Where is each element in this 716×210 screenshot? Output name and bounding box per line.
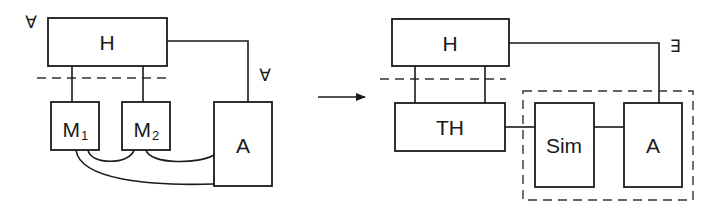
- m1-m2-curve: [88, 150, 134, 161]
- m2-box: M 2: [122, 102, 170, 150]
- h-a-connector: [167, 41, 248, 102]
- sim-box: Sim: [535, 103, 594, 187]
- th-box: TH: [395, 103, 505, 151]
- left-h-label: H: [99, 31, 114, 54]
- left-diagram: ∀ H ∀ M 1 M 2 A: [25, 12, 272, 186]
- right-h-a-connector: [509, 43, 659, 103]
- m1-a-curve: [76, 150, 214, 184]
- right-h-box: H: [392, 19, 509, 66]
- right-a-label: A: [646, 134, 660, 157]
- m2-a-curve: [146, 150, 214, 162]
- diagram-canvas: ∀ H ∀ M 1 M 2 A: [0, 0, 716, 210]
- m1-box: M 1: [51, 102, 99, 150]
- right-diagram: H ∃ TH Sim A: [380, 19, 693, 200]
- right-a-box: A: [624, 103, 682, 187]
- sim-label: Sim: [546, 134, 582, 157]
- left-a-box: A: [214, 102, 272, 186]
- m2-label: M: [134, 118, 152, 141]
- right-h-label: H: [442, 32, 457, 55]
- forall-quantifier-right: ∀: [259, 65, 271, 85]
- m1-subscript: 1: [81, 128, 88, 143]
- left-h-box: H: [48, 18, 167, 66]
- forall-quantifier-top: ∀: [25, 12, 37, 32]
- exists-quantifier: ∃: [670, 36, 681, 56]
- left-a-label: A: [236, 134, 250, 157]
- m2-subscript: 2: [152, 128, 159, 143]
- m1-label: M: [63, 118, 81, 141]
- th-label: TH: [436, 116, 464, 139]
